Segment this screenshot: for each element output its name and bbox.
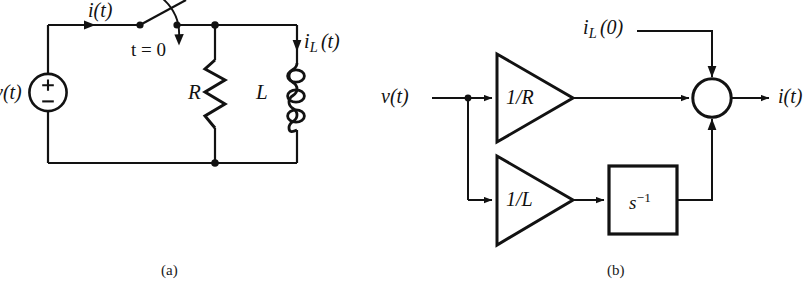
inductor-coil (288, 63, 305, 132)
wire-initial-condition (637, 31, 712, 77)
integrator-label: s−1 (629, 190, 651, 214)
initial-condition-subscript: L (589, 25, 597, 41)
block-input-label: v(t) (381, 86, 409, 106)
inductor-current-base: i (304, 30, 310, 52)
caption-b: (b) (607, 262, 625, 279)
resistor-label: R (188, 82, 201, 103)
initial-condition-argument: (0) (597, 16, 623, 38)
figure-artwork (0, 0, 803, 295)
inductor-current-arrow (293, 40, 302, 52)
figure-root: v(t) i(t) t = 0 R L iL(t) (a) v(t) iL(0)… (0, 0, 803, 295)
block-diagram (432, 31, 769, 245)
resistor-zigzag (205, 60, 225, 128)
voltage-source-symbol (29, 74, 66, 111)
integrator-exponent: −1 (636, 190, 651, 205)
sum-input-top-arrowhead (708, 66, 717, 78)
gain-top-label: 1/R (506, 86, 534, 109)
inductor-current-argument: (t) (318, 30, 340, 52)
switch-close-arrowhead (174, 34, 183, 46)
block-output-label: i(t) (778, 86, 802, 106)
caption-a: (a) (161, 262, 178, 279)
gain-bottom-label: 1/L (506, 188, 533, 211)
current-arrow-i (84, 21, 96, 30)
switch-time-label: t = 0 (131, 40, 166, 59)
sum-input-bottom-arrowhead (708, 119, 717, 131)
inductor-current-subscript: L (310, 39, 318, 55)
switch-blade (140, 0, 186, 25)
inductor-current-label: iL(t) (304, 31, 340, 54)
summing-junction (693, 79, 731, 117)
initial-condition-label: iL(0) (583, 17, 623, 40)
inductor-label: L (256, 82, 268, 103)
current-label-i: i(t) (88, 0, 112, 20)
initial-condition-base: i (583, 16, 589, 38)
wire-integrator-to-sum (677, 119, 712, 200)
source-label: v(t) (0, 82, 22, 102)
